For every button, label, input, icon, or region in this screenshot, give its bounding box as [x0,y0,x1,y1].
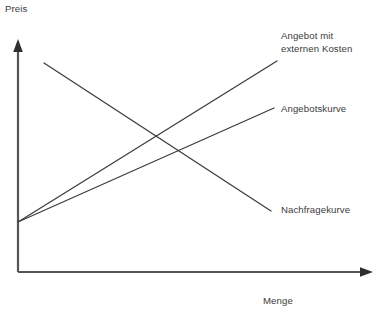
curve-supply-with-external-costs [18,61,277,222]
curve-supply [18,108,274,222]
y-axis-label: Preis [5,2,27,15]
x-axis-arrowhead-icon [360,267,373,277]
series-label-supply: Angebotskurve [281,102,346,115]
supply-demand-diagram: Preis Menge Angebot mit externen Kosten … [0,0,381,322]
series-label-demand: Nachfragekurve [281,203,350,216]
series-label-supply-with-external-costs: Angebot mit externen Kosten [281,29,352,55]
y-axis-arrowhead-icon [13,39,23,52]
x-axis-label: Menge [263,294,293,307]
